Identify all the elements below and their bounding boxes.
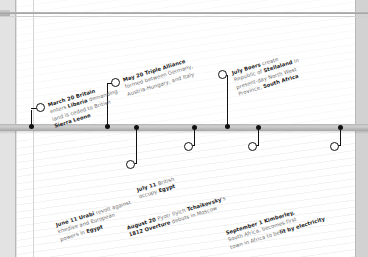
event-marker-ring-june-11[interactable]	[126, 160, 135, 169]
event-stem-september-1	[340, 128, 341, 146]
event-marker-dot-may-20[interactable]	[105, 124, 110, 129]
event-label-line: in	[292, 57, 300, 65]
event-marker-dot-august-20[interactable]	[256, 125, 261, 130]
event-marker-dot-july-boers[interactable]	[225, 124, 230, 129]
event-marker-dot-march-20[interactable]	[29, 124, 34, 129]
event-stem-august-20	[258, 128, 259, 146]
event-marker-dot-june-11[interactable]	[134, 125, 139, 130]
event-marker-ring-march-20[interactable]	[36, 103, 45, 112]
timeline-axis-shadow	[0, 131, 368, 134]
event-stem-june-11	[136, 128, 137, 164]
event-marker-ring-july-11[interactable]	[184, 142, 193, 151]
event-stem-july-11	[194, 128, 195, 146]
event-marker-ring-september-1[interactable]	[330, 142, 339, 151]
event-marker-ring-august-20[interactable]	[248, 142, 257, 151]
event-stem-july-boers	[227, 76, 228, 126]
timeline-diagram: March 20 Britain enters Liberia demandin…	[0, 0, 368, 257]
event-marker-ring-july-boers[interactable]	[218, 70, 227, 79]
top-rule	[0, 12, 368, 14]
event-marker-dot-july-11[interactable]	[192, 125, 197, 130]
event-marker-dot-september-1[interactable]	[338, 125, 343, 130]
top-rule-secondary	[0, 16, 368, 17]
